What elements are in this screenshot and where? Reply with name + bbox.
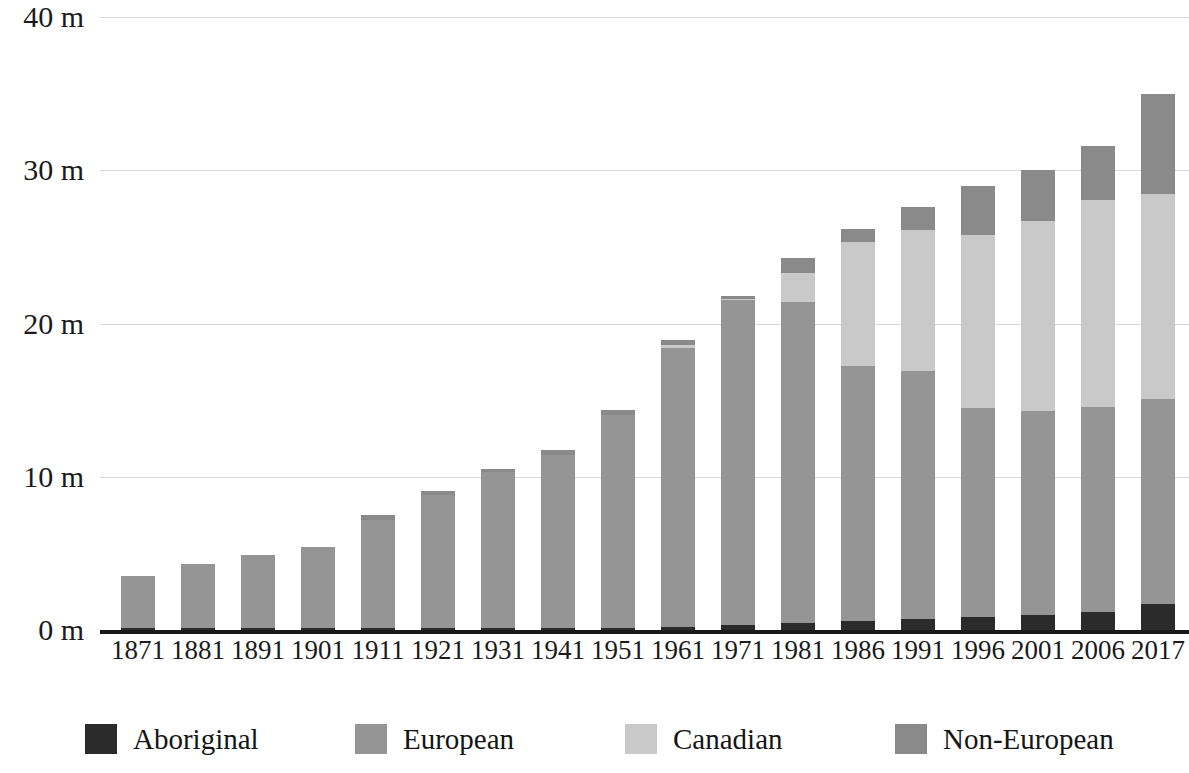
x-axis-tick-label: 2017	[1131, 636, 1185, 666]
bar-segment-european	[121, 576, 155, 628]
bar-column	[121, 576, 155, 630]
bar-segment-canadian	[961, 235, 995, 408]
bar-segment-european	[961, 408, 995, 616]
legend-item-non-european[interactable]: Non-European	[895, 716, 1114, 762]
legend-label: European	[403, 725, 514, 754]
bar-segment-aboriginal	[241, 628, 275, 630]
bar-segment-european	[1141, 399, 1175, 604]
bar-segment-european	[301, 547, 335, 628]
y-axis-tick-label: 40 m	[23, 2, 84, 32]
bar-segment-non-european	[961, 186, 995, 235]
bar-segment-european	[481, 472, 515, 628]
bar-segment-aboriginal	[361, 628, 395, 630]
bar-segment-aboriginal	[961, 617, 995, 630]
chart-legend: AboriginalEuropeanCanadianNon-European	[0, 716, 1189, 773]
bar-segment-non-european	[841, 229, 875, 243]
bar-segment-non-european	[1141, 94, 1175, 194]
bar-segment-european	[721, 300, 755, 625]
bar-segment-non-european	[721, 296, 755, 299]
bar-segment-aboriginal	[121, 628, 155, 630]
bar-segment-non-european	[661, 340, 695, 345]
x-axis-labels: 1871188118911901191119211931194119511961…	[100, 636, 1189, 682]
bar-segment-canadian	[1081, 200, 1115, 407]
bar-segment-aboriginal	[1081, 612, 1115, 630]
bar-segment-non-european	[601, 410, 635, 415]
legend-swatch-icon	[625, 724, 657, 754]
bar-column	[901, 207, 935, 630]
bar-segment-non-european	[781, 258, 815, 273]
bar-segment-aboriginal	[661, 627, 695, 630]
bar-segment-non-european	[421, 491, 455, 496]
bar-column	[661, 340, 695, 630]
bar-column	[241, 555, 275, 630]
bar-segment-aboriginal	[781, 623, 815, 631]
bar-column	[781, 258, 815, 630]
y-axis-tick-label: 10 m	[23, 462, 84, 492]
x-axis-tick-label: 1986	[831, 636, 885, 666]
legend-item-european[interactable]: European	[355, 716, 514, 762]
legend-item-aboriginal[interactable]: Aboriginal	[85, 716, 259, 762]
x-axis-tick-label: 1971	[711, 636, 765, 666]
x-axis-tick-label: 1881	[171, 636, 225, 666]
bar-segment-european	[781, 302, 815, 622]
x-axis-tick-label: 1951	[591, 636, 645, 666]
bar-column	[841, 244, 875, 630]
bar-segment-non-european	[361, 515, 395, 520]
bar-segment-aboriginal	[1021, 615, 1055, 630]
bar-segment-canadian	[661, 345, 695, 348]
x-axis-tick-label: 1871	[111, 636, 165, 666]
bar-segment-european	[181, 564, 215, 628]
bar-segment-european	[421, 495, 455, 628]
bar-segment-european	[541, 455, 575, 628]
bar-segment-aboriginal	[481, 628, 515, 630]
bar-segment-non-european	[481, 469, 515, 472]
bar-segment-aboriginal	[421, 628, 455, 630]
chart-plot-area: 0 m10 m20 m30 m40 m 18711881189119011911…	[0, 0, 1189, 700]
bar-segment-european	[841, 366, 875, 620]
bar-segment-aboriginal	[721, 625, 755, 630]
bar-segment-european	[661, 348, 695, 627]
bar-segment-european	[601, 415, 635, 628]
bar-column	[421, 491, 455, 630]
bar-segment-canadian	[841, 242, 875, 366]
bar-column	[181, 564, 215, 630]
bar-segment-canadian	[781, 273, 815, 302]
bar-segment-aboriginal	[901, 619, 935, 630]
bar-column	[301, 547, 335, 630]
x-axis-tick-label: 1921	[411, 636, 465, 666]
bar-column	[601, 409, 635, 630]
bar-segment-european	[901, 371, 935, 619]
y-axis-tick-label: 0 m	[38, 615, 84, 645]
bar-segment-european	[1081, 407, 1115, 612]
chart-root: 0 m10 m20 m30 m40 m 18711881189119011911…	[0, 0, 1189, 773]
x-axis-tick-label: 1901	[291, 636, 345, 666]
legend-label: Aboriginal	[133, 725, 259, 754]
y-axis-tick-label: 30 m	[23, 155, 84, 185]
legend-swatch-icon	[85, 724, 117, 754]
bar-segment-european	[361, 520, 395, 629]
bar-segment-european	[241, 555, 275, 629]
legend-swatch-icon	[895, 724, 927, 754]
bar-segment-aboriginal	[301, 628, 335, 630]
legend-label: Non-European	[943, 725, 1114, 754]
bar-series-group	[100, 0, 1189, 700]
bar-segment-aboriginal	[841, 621, 875, 630]
y-axis-labels: 0 m10 m20 m30 m40 m	[0, 0, 100, 700]
x-axis-tick-label: 1911	[352, 636, 405, 666]
y-axis-tick-label: 20 m	[23, 309, 84, 339]
legend-item-canadian[interactable]: Canadian	[625, 716, 783, 762]
bar-column	[1141, 94, 1175, 630]
bar-segment-non-european	[1021, 170, 1055, 221]
bar-segment-canadian	[1141, 194, 1175, 399]
bar-segment-european	[1021, 411, 1055, 615]
bar-segment-aboriginal	[601, 628, 635, 630]
x-axis-tick-label: 2006	[1071, 636, 1125, 666]
bar-column	[1021, 170, 1055, 630]
x-axis-tick-label: 2001	[1011, 636, 1065, 666]
bar-segment-canadian	[901, 230, 935, 371]
bar-segment-canadian	[1021, 221, 1055, 411]
bar-segment-aboriginal	[541, 628, 575, 630]
x-axis-tick-label: 1996	[951, 636, 1005, 666]
bar-segment-non-european	[901, 207, 935, 230]
bar-column	[541, 451, 575, 630]
